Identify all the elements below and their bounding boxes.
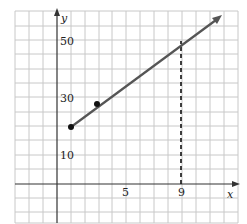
x-axis-arrow-icon [232,181,240,187]
y-tick-50: 50 [60,35,74,48]
x-tick-5: 5 [122,186,129,199]
data-point [68,124,74,130]
data-point [94,101,100,107]
y-tick-30: 30 [60,92,74,105]
coordinate-plane: y x 50 30 10 5 9 [0,0,247,224]
trend-line [71,20,216,127]
x-axis-label: x [227,188,234,201]
y-axis-label: y [60,12,68,25]
y-axis-arrow-icon [54,8,60,16]
x-tick-9: 9 [178,186,185,199]
y-tick-10: 10 [60,149,74,162]
